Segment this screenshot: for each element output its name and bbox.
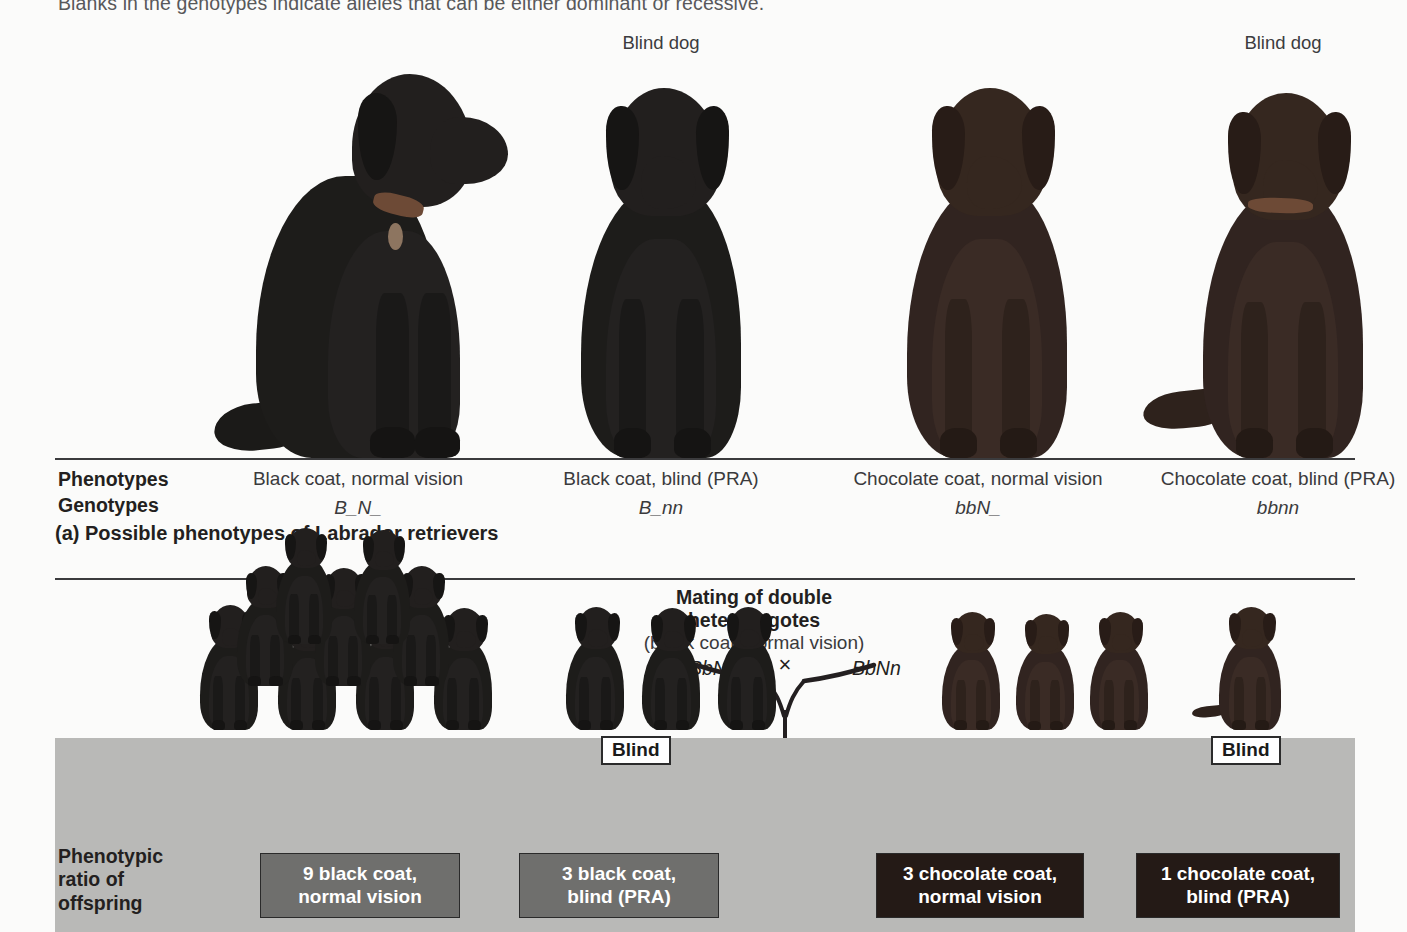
ratio-box-line-2: blind (PRA) bbox=[567, 886, 670, 907]
offspring-group-3 bbox=[922, 600, 1172, 730]
phenotype-text: Black coat, normal vision bbox=[223, 468, 493, 490]
dog-paw-left bbox=[370, 427, 415, 458]
offspring-group-1 bbox=[175, 510, 525, 730]
offspring-group-4 bbox=[1196, 600, 1306, 730]
dog-paw-left bbox=[1236, 428, 1274, 458]
dog-paw-right bbox=[1296, 428, 1334, 458]
dog-paw-right bbox=[415, 427, 460, 458]
blind-callout-group-4: Blind bbox=[1211, 736, 1281, 765]
offspring-dog-row bbox=[0, 600, 1407, 832]
divider-rule-top bbox=[55, 458, 1355, 460]
ratio-box-line-2: normal vision bbox=[918, 886, 1042, 907]
dog-muzzle bbox=[430, 117, 508, 184]
row-label-phenotypic-ratio: Phenotypicratio ofoffspring bbox=[58, 845, 228, 915]
dog-silhouette bbox=[862, 80, 1112, 458]
phenotype-column-3: Chocolate coat, normal vision bbN_ bbox=[828, 468, 1128, 519]
figure-root: Blanks in the genotypes indicate alleles… bbox=[0, 0, 1407, 932]
dog-paw-right bbox=[674, 428, 712, 458]
ratio-box-group-2: 3 black coat, blind (PRA) bbox=[519, 853, 719, 918]
dog-silhouette bbox=[536, 80, 786, 458]
ratio-box-line-2: blind (PRA) bbox=[1186, 886, 1289, 907]
dog-silhouette bbox=[208, 66, 508, 458]
ratio-box-line-1: 3 chocolate coat, bbox=[903, 863, 1057, 884]
blind-dog-label-column-2: Blind dog bbox=[561, 32, 761, 54]
dog-paw-left bbox=[614, 428, 652, 458]
phenotype-text: Chocolate coat, normal vision bbox=[828, 468, 1128, 490]
dog-photo-chocolate-blind bbox=[1158, 86, 1407, 458]
ratio-box-group-3: 3 chocolate coat, normal vision bbox=[876, 853, 1084, 918]
puppy bbox=[339, 528, 425, 644]
puppy bbox=[1074, 610, 1164, 730]
blind-dog-label-column-4: Blind dog bbox=[1183, 32, 1383, 54]
offspring-group-2 bbox=[545, 600, 795, 730]
dog-photo-chocolate-normal bbox=[862, 80, 1112, 458]
ratio-box-group-1: 9 black coat, normal vision bbox=[260, 853, 460, 918]
blind-callout-group-2: Blind bbox=[601, 736, 671, 765]
intro-note: Blanks in the genotypes indicate alleles… bbox=[58, 0, 1358, 15]
dog-photo-black-blind bbox=[536, 80, 786, 458]
genotype-text: B_nn bbox=[530, 497, 792, 519]
ratio-box-group-4: 1 chocolate coat, blind (PRA) bbox=[1136, 853, 1340, 918]
genotype-text: bbN_ bbox=[828, 497, 1128, 519]
puppy bbox=[261, 526, 347, 644]
dog-collar-tag bbox=[388, 223, 403, 250]
dog-paw-right bbox=[1000, 428, 1038, 458]
phenotype-column-2: Black coat, blind (PRA) B_nn bbox=[530, 468, 792, 519]
ratio-box-line-1: 9 black coat, bbox=[303, 863, 417, 884]
row-label-genotypes: Genotypes bbox=[58, 494, 159, 517]
ratio-box-line-1: 1 chocolate coat, bbox=[1161, 863, 1315, 884]
puppy bbox=[1202, 604, 1298, 730]
ratio-box-line-2: normal vision bbox=[298, 886, 422, 907]
row-label-phenotypes: Phenotypes bbox=[58, 468, 169, 491]
part-a-dog-row bbox=[0, 52, 1407, 458]
ratio-box-line-1: 3 black coat, bbox=[562, 863, 676, 884]
dog-paw-left bbox=[940, 428, 978, 458]
phenotype-text: Chocolate coat, blind (PRA) bbox=[1133, 468, 1407, 490]
genotype-text: bbnn bbox=[1133, 497, 1407, 519]
puppy bbox=[701, 604, 793, 730]
dog-silhouette bbox=[1158, 86, 1407, 458]
phenotype-column-4: Chocolate coat, blind (PRA) bbnn bbox=[1133, 468, 1407, 519]
dog-photo-black-normal bbox=[208, 66, 508, 458]
phenotype-text: Black coat, blind (PRA) bbox=[530, 468, 792, 490]
